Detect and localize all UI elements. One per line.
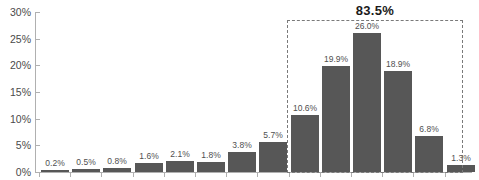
bar (353, 33, 381, 172)
y-axis-tick (35, 12, 40, 13)
bar (415, 136, 443, 172)
bar (384, 71, 412, 172)
x-axis-tick (70, 172, 71, 177)
y-axis-label: 15% (0, 87, 31, 97)
chart-title (0, 0, 473, 2)
x-axis-tick (133, 172, 134, 177)
x-axis-tick (101, 172, 102, 177)
y-axis-tick (35, 39, 40, 40)
bar (197, 162, 225, 172)
highlight-total-label: 83.5% (287, 4, 463, 18)
bar-value-label: 26.0% (347, 22, 387, 31)
x-axis-tick (195, 172, 196, 177)
x-axis-tick (226, 172, 227, 177)
bar (259, 142, 287, 172)
bar-value-label: 1.3% (441, 154, 479, 163)
y-axis-label: 25% (0, 34, 31, 44)
bar-value-label: 3.8% (222, 141, 262, 150)
y-axis-label: 5% (0, 140, 31, 150)
bar-value-label: 18.9% (378, 60, 418, 69)
bar-value-label: 10.6% (285, 104, 325, 113)
x-axis-tick (445, 172, 446, 177)
bar (41, 170, 69, 172)
y-axis-label: 30% (0, 7, 31, 17)
bar-value-label: 19.9% (316, 55, 356, 64)
y-axis-tick (35, 65, 40, 66)
bar-value-label: 5.7% (253, 131, 293, 140)
x-axis-tick (164, 172, 165, 177)
y-axis-label: 0% (0, 167, 31, 177)
x-axis-tick (39, 172, 40, 177)
y-axis-tick (35, 92, 40, 93)
x-axis-tick (351, 172, 352, 177)
x-axis-tick (413, 172, 414, 177)
bar-value-label: 1.8% (191, 151, 231, 160)
x-axis-tick (289, 172, 290, 177)
bar (135, 163, 163, 172)
bar (291, 115, 319, 172)
bar (228, 152, 256, 172)
x-axis-tick (257, 172, 258, 177)
x-axis-tick (320, 172, 321, 177)
y-axis-tick (35, 119, 40, 120)
y-axis-label: 10% (0, 114, 31, 124)
bar (72, 169, 100, 172)
bar (166, 161, 194, 172)
bar (103, 168, 131, 172)
y-axis-label: 20% (0, 60, 31, 70)
x-axis-tick (382, 172, 383, 177)
bar (322, 66, 350, 172)
y-axis-tick (35, 145, 40, 146)
bar (447, 165, 475, 172)
bar-value-label: 6.8% (409, 125, 449, 134)
